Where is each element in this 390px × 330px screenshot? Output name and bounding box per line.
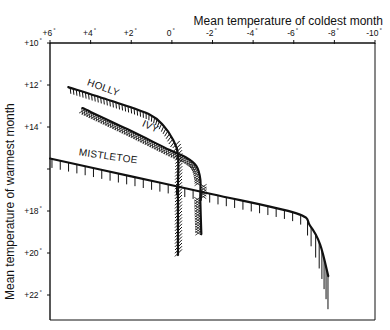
hatch-tick bbox=[168, 136, 172, 141]
hatch-tick bbox=[116, 102, 117, 108]
x-tick-label: -4° bbox=[247, 27, 259, 38]
hatch-tick bbox=[70, 88, 71, 94]
hatch-tick bbox=[128, 106, 129, 112]
hatch-tick bbox=[122, 104, 123, 110]
hatch-tick bbox=[95, 95, 96, 101]
y-tick-label: +10° bbox=[24, 37, 42, 48]
hatch-tick bbox=[171, 142, 175, 147]
x-tick-label: -8° bbox=[328, 27, 340, 38]
hatch-tick bbox=[92, 94, 93, 100]
x-axis-ticks: +6°+4°+2°0°-2°-4°-6°-8°-10° bbox=[42, 27, 382, 44]
hatch-tick bbox=[79, 91, 80, 97]
series-layer bbox=[50, 87, 328, 309]
hatch-tick bbox=[82, 92, 83, 98]
y-tick-label: +14° bbox=[24, 121, 42, 132]
series-mistletoe bbox=[50, 159, 328, 310]
x-tick-label: +6° bbox=[42, 27, 56, 38]
hatch-tick bbox=[119, 103, 120, 109]
hatch-tick bbox=[166, 134, 169, 139]
hatch-tick bbox=[163, 128, 166, 133]
hatch-tick bbox=[107, 99, 108, 105]
x-tick-label: -6° bbox=[287, 27, 299, 38]
y-tick-label: +18° bbox=[24, 205, 42, 216]
hatch-tick bbox=[98, 96, 99, 102]
y-tick-label: +22° bbox=[24, 289, 42, 300]
chart: +6°+4°+2°0°-2°-4°-6°-8°-10° +10°+12°+14°… bbox=[0, 0, 390, 330]
x-axis-title: Mean temperature of coldest month bbox=[194, 14, 383, 28]
hatch-tick bbox=[88, 93, 89, 99]
hatch-tick bbox=[110, 100, 111, 106]
hatch-tick bbox=[76, 90, 77, 96]
x-tick-label: -10° bbox=[366, 27, 382, 38]
y-axis-title: Mean temperature of warmest month bbox=[3, 103, 17, 300]
hatch-tick bbox=[161, 126, 163, 132]
hatch-tick bbox=[165, 131, 168, 136]
hatch-tick bbox=[125, 105, 126, 111]
hatch-tick bbox=[101, 97, 102, 103]
mistletoe-boundary-line bbox=[50, 159, 328, 277]
y-axis-ticks: +10°+12°+14°+18°+20°+22° bbox=[24, 37, 50, 300]
mistletoe-hatching bbox=[52, 159, 328, 309]
mistletoe-label: MISTLETOE bbox=[78, 146, 138, 165]
hatch-tick bbox=[169, 139, 173, 144]
x-tick-label: +4° bbox=[83, 27, 97, 38]
hatch-tick bbox=[113, 101, 114, 107]
y-tick-label: +12° bbox=[24, 79, 42, 90]
hatch-tick bbox=[85, 93, 86, 99]
x-tick-label: -2° bbox=[206, 27, 218, 38]
hatch-tick bbox=[73, 89, 74, 95]
hatch-tick bbox=[131, 107, 132, 113]
hatch-tick bbox=[104, 98, 105, 104]
x-tick-label: 0° bbox=[167, 27, 176, 38]
curve-labels: HOLLYIVYMISTLETOE bbox=[78, 77, 160, 166]
x-tick-label: +2° bbox=[124, 27, 138, 38]
y-tick-label: +20° bbox=[24, 247, 42, 258]
